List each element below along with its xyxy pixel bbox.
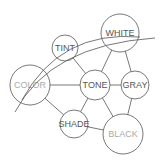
nodes: WHITETINTCOLORTONEGRAYSHADEBLACK xyxy=(10,14,149,154)
node-label: GRAY xyxy=(123,80,148,90)
node-label: COLOR xyxy=(14,80,47,90)
node-tone: TONE xyxy=(80,70,110,100)
node-color: COLOR xyxy=(10,65,50,105)
color-tone-diagram: WHITETINTCOLORTONEGRAYSHADEBLACK xyxy=(0,0,161,167)
node-label: BLACK xyxy=(108,129,138,139)
node-black: BLACK xyxy=(103,114,143,154)
node-white: WHITE xyxy=(101,14,139,52)
node-label: TONE xyxy=(83,80,108,90)
node-gray: GRAY xyxy=(121,71,149,99)
node-label: SHADE xyxy=(58,119,89,129)
